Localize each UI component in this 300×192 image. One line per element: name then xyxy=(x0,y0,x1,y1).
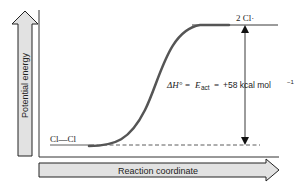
e-act-text: E xyxy=(194,80,201,90)
e-act-subscript: act xyxy=(201,84,210,91)
y-axis-label: Potential energy xyxy=(20,52,30,118)
activation-energy-label: ΔH° = E act = +58 kcal mol −1 xyxy=(166,79,295,91)
energy-diagram: Potential energy Reaction coordinate Cl—… xyxy=(0,0,300,192)
unit-exponent: −1 xyxy=(287,79,295,85)
x-axis-label: Reaction coordinate xyxy=(118,166,198,176)
energy-value-text: +58 kcal mol xyxy=(223,80,271,90)
product-label: 2 Cl· xyxy=(236,13,254,23)
equals-sign-2: = xyxy=(214,80,219,90)
equals-sign: = xyxy=(185,80,190,90)
reactant-label: Cl—Cl xyxy=(50,134,77,144)
delta-h-text: ΔH° xyxy=(166,80,183,90)
